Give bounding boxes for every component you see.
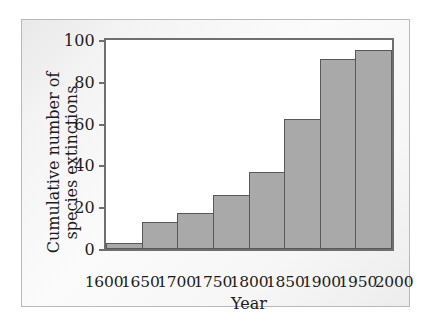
y-axis-tick-label: 80 xyxy=(74,72,95,91)
x-axis-ticks: 160016501700175018001850190019502000 xyxy=(104,273,394,295)
y-axis-tick-mark xyxy=(99,249,106,251)
y-axis-tick-mark xyxy=(99,165,106,167)
bar-series xyxy=(106,40,392,249)
x-axis-tick-label: 1750 xyxy=(193,273,232,291)
x-axis-tick-label: 1900 xyxy=(302,273,341,291)
bar xyxy=(177,213,214,249)
y-axis-tick-label: 60 xyxy=(74,114,95,133)
y-axis-title-line-1: Cumulative number of xyxy=(45,72,63,254)
bar xyxy=(284,119,321,249)
x-axis-title: Year xyxy=(104,294,394,313)
x-axis-tick-label: 1850 xyxy=(266,273,305,291)
bar xyxy=(213,195,250,249)
bar xyxy=(249,172,286,249)
y-axis-tick-label: 20 xyxy=(74,198,95,217)
bar xyxy=(142,222,179,249)
x-axis-tick-label: 1700 xyxy=(157,273,196,291)
bar xyxy=(355,50,392,249)
y-axis-tick-mark xyxy=(99,82,106,84)
x-axis-tick-label: 1650 xyxy=(121,273,160,291)
figure-inner: Cumulative number of species extinctions… xyxy=(22,20,409,306)
x-axis-tick-label: 1950 xyxy=(338,273,377,291)
y-axis-tick-label: 100 xyxy=(64,31,95,50)
bar xyxy=(320,59,357,249)
plot-area: 020406080100 xyxy=(104,38,394,251)
y-axis-tick-mark xyxy=(99,124,106,126)
x-axis-tick-label: 2000 xyxy=(375,273,414,291)
y-axis-tick-label: 40 xyxy=(74,156,95,175)
y-axis-tick-mark xyxy=(99,40,106,42)
y-axis-tick-label: 0 xyxy=(85,240,95,259)
y-axis-tick-mark xyxy=(99,207,106,209)
bar xyxy=(106,243,143,249)
figure-frame: Cumulative number of species extinctions… xyxy=(21,19,410,307)
x-axis-tick-label: 1600 xyxy=(85,273,124,291)
x-axis-tick-label: 1800 xyxy=(230,273,269,291)
